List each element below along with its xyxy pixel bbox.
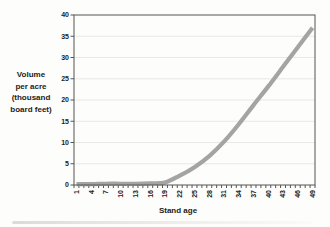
plot-area: 0510152025303540147101316192225283134374… [0, 0, 330, 227]
x-tick-label: 13 [132, 190, 139, 198]
scan-artifact [12, 221, 312, 224]
x-tick-label: 43 [279, 190, 286, 198]
x-tick-label: 31 [220, 190, 227, 198]
x-tick-label: 4 [88, 190, 95, 194]
y-tick-label: 30 [61, 54, 69, 61]
x-tick-label: 34 [235, 190, 242, 198]
y-tick-label: 20 [61, 96, 69, 103]
x-tick-label: 49 [309, 190, 316, 198]
y-tick-label: 15 [61, 118, 69, 125]
x-axis-title: Stand age [113, 206, 243, 215]
x-tick-label: 25 [191, 190, 198, 198]
x-tick-label: 40 [265, 190, 272, 198]
chart-figure: Volume per acre (thousand board feet) 05… [0, 0, 330, 227]
y-tick-label: 40 [61, 11, 69, 18]
x-tick-label: 37 [250, 190, 257, 198]
x-tick-label: 28 [206, 190, 213, 198]
y-tick-label: 25 [61, 75, 69, 82]
x-tick-label: 46 [294, 190, 301, 198]
x-tick-label: 16 [147, 190, 154, 198]
y-tick-label: 35 [61, 33, 69, 40]
y-tick-label: 10 [61, 139, 69, 146]
x-tick-label: 7 [102, 190, 109, 194]
x-tick-label: 22 [176, 190, 183, 198]
x-tick-label: 19 [161, 190, 168, 198]
x-tick-label: 10 [117, 190, 124, 198]
y-tick-label: 0 [65, 181, 69, 188]
volume-curve [76, 28, 312, 184]
x-tick-label: 1 [73, 190, 80, 194]
y-tick-label: 5 [65, 160, 69, 167]
